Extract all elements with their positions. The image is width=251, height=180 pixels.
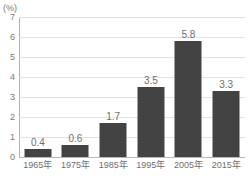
bar-group: 5.8	[170, 17, 208, 157]
x-tick-label: 1965年	[23, 160, 52, 171]
y-tick-label: 0	[10, 153, 15, 162]
y-tick-label: 3	[10, 93, 15, 102]
axis-baseline: 0	[19, 157, 245, 158]
bar-group: 1.7	[94, 17, 132, 157]
bar-chart: (%) 01234567 0.40.61.73.55.83.3 1965年197…	[0, 0, 251, 180]
bars-layer: 0.40.61.73.55.83.3	[19, 17, 245, 157]
y-tick-label: 5	[10, 53, 15, 62]
y-tick-label: 2	[10, 113, 15, 122]
bar-value-label: 3.5	[144, 75, 158, 86]
y-tick-label: 6	[10, 33, 15, 42]
bar	[100, 123, 127, 157]
bar-value-label: 1.7	[106, 111, 120, 122]
plot-area: 01234567 0.40.61.73.55.83.3	[19, 17, 245, 157]
x-tick-label: 1985年	[99, 160, 128, 171]
x-tick-label: 1995年	[136, 160, 165, 171]
x-tick-label: 2005年	[174, 160, 203, 171]
bar	[24, 149, 51, 157]
y-tick-label: 1	[10, 133, 15, 142]
bar-group: 0.4	[19, 17, 57, 157]
bar	[213, 91, 240, 157]
y-tick-label: 4	[10, 73, 15, 82]
y-tick-label: 7	[10, 13, 15, 22]
bar-value-label: 0.4	[31, 137, 45, 148]
bar-group: 3.3	[207, 17, 245, 157]
bar-group: 3.5	[132, 17, 170, 157]
x-tick-label: 1975年	[61, 160, 90, 171]
bar-group: 0.6	[57, 17, 95, 157]
bar	[62, 145, 89, 157]
bar-value-label: 0.6	[69, 133, 83, 144]
bar-value-label: 3.3	[219, 79, 233, 90]
x-tick-label: 2015年	[212, 160, 241, 171]
bar	[175, 41, 202, 157]
bar-value-label: 5.8	[182, 29, 196, 40]
x-axis-labels: 1965年1975年1985年1995年2005年2015年	[19, 160, 245, 176]
bar	[137, 87, 164, 157]
